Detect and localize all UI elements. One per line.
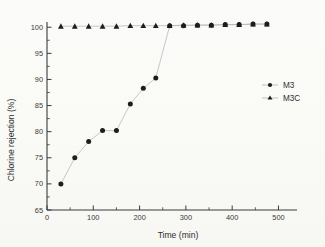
y-tick-label: 85 [35, 101, 43, 110]
series-line-m3c [61, 24, 267, 26]
data-point-m3 [167, 23, 172, 28]
data-point-m3 [114, 128, 119, 133]
data-point-m3 [181, 23, 186, 28]
y-tick-label: 70 [35, 179, 43, 188]
x-tick-label: 400 [226, 213, 238, 222]
y-tick-label: 95 [35, 49, 43, 58]
y-tick-label: 100 [31, 23, 43, 32]
legend-marker-triangle-icon [268, 95, 273, 99]
y-axis-tick-labels: 65707580859095100 [31, 23, 43, 215]
data-point-m3 [264, 22, 269, 27]
x-tick-label: 300 [180, 213, 192, 222]
data-point-m3 [141, 86, 146, 91]
x-tick-label: 100 [87, 213, 99, 222]
legend-entry-m3[interactable]: M3 [262, 81, 295, 90]
data-point-m3 [58, 181, 63, 186]
data-point-m3 [251, 22, 256, 27]
series-lines [61, 24, 267, 184]
legend-marker-circle-icon [268, 83, 272, 87]
x-axis-ticks [47, 206, 278, 211]
x-tick-label: 200 [133, 213, 145, 222]
y-axis-ticks [47, 27, 52, 210]
legend-label-m3c: M3C [283, 94, 300, 103]
x-axis-tick-labels: 0100200300400500 [45, 213, 285, 222]
x-tick-label: 500 [272, 213, 284, 222]
data-point-m3 [86, 139, 91, 144]
series-line-m3 [61, 24, 267, 184]
data-point-m3 [195, 23, 200, 28]
legend-entry-m3c[interactable]: M3C [262, 94, 300, 103]
x-tick-label: 0 [45, 213, 49, 222]
chart-canvas: 65707580859095100 0100200300400500 Chlor… [0, 0, 325, 247]
data-point-m3 [128, 101, 133, 106]
y-axis-title: Chlorine rejection (%) [6, 99, 16, 182]
y-tick-label: 75 [35, 153, 43, 162]
y-tick-label: 90 [35, 75, 43, 84]
chart-figure: 65707580859095100 0100200300400500 Chlor… [0, 0, 325, 247]
data-point-m3 [237, 22, 242, 27]
y-tick-label: 65 [35, 206, 43, 215]
data-point-m3 [153, 75, 158, 80]
data-point-m3 [100, 128, 105, 133]
x-axis-title: Time (min) [158, 230, 199, 240]
legend-label-m3: M3 [283, 81, 295, 90]
y-tick-label: 80 [35, 127, 43, 136]
data-point-m3 [72, 155, 77, 160]
data-point-m3 [223, 22, 228, 27]
data-point-m3 [209, 23, 214, 28]
chart-legend: M3 M3C [262, 81, 300, 103]
